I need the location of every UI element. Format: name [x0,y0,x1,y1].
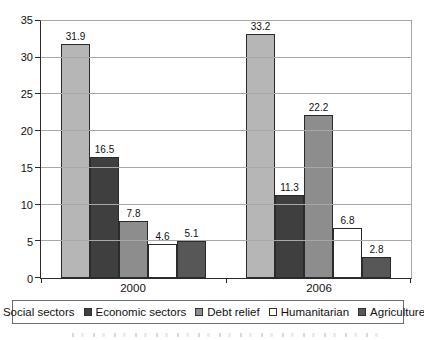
y-axis-labels: 05101520253035 [0,20,33,279]
social-sectors-bar [61,44,90,278]
y-tick-label: 10 [0,199,33,211]
humanitarian-bar [148,244,177,278]
bar-value-label: 33.2 [232,21,290,32]
legend-label: Agriculture [370,306,424,318]
legend-label: Economic sectors [96,306,187,318]
gridline [41,167,411,168]
y-tick-label: 30 [0,51,33,63]
gridline [41,130,411,131]
category-label-2000: 2000 [40,282,226,294]
gridline [41,93,411,94]
legend-label: Humanitarian [281,306,349,318]
legend-item: Economic sectors [84,306,187,318]
legend-item: Agriculture [358,306,424,318]
faint-cropped-caption [72,333,380,337]
plot-area: 31.916.57.84.65.133.211.322.26.82.8 [40,20,412,279]
bar-value-label: 31.9 [47,31,105,42]
y-tick-mark [35,20,40,21]
legend-swatch-icon [84,308,92,316]
bar-value-label: 7.8 [105,208,163,219]
bar: 33.2 [246,34,275,278]
y-tick-mark [35,204,40,205]
bar-value-label: 22.2 [290,102,348,113]
legend: Social sectorsEconomic sectorsDebt relie… [12,300,404,324]
bar: 11.3 [275,195,304,278]
legend-item: Humanitarian [269,306,349,318]
gridline [41,204,411,205]
gridline [41,240,411,241]
y-tick-label: 15 [0,162,33,174]
gridline [41,57,411,58]
y-tick-label: 5 [0,236,33,248]
legend-swatch-icon [195,308,203,316]
y-tick-mark [35,93,40,94]
y-tick-mark [35,277,40,278]
debt-relief-bar [304,115,333,278]
y-tick-mark [35,167,40,168]
y-tick-mark [35,240,40,241]
y-tick-label: 35 [0,14,33,26]
bar-value-label: 16.5 [76,144,134,155]
y-tick-label: 0 [0,273,33,285]
x-axis-category-labels: 20002006 [40,282,412,294]
bar-value-label: 2.8 [348,244,406,255]
bar: 7.8 [119,221,148,278]
legend-swatch-icon [358,308,366,316]
legend-item: Debt relief [195,306,259,318]
bar: 4.6 [148,244,177,278]
bar-value-label: 5.1 [163,228,221,239]
legend-label: Social sectors [3,306,75,318]
social-sectors-bar [246,34,275,278]
agriculture-bar [177,241,206,278]
y-tick-label: 25 [0,88,33,100]
bar-value-label: 6.8 [319,215,377,226]
bar: 2.8 [362,257,391,278]
bar: 22.2 [304,115,333,278]
legend-item: Social sectors [0,306,75,318]
debt-relief-bar [119,221,148,278]
legend-label: Debt relief [207,306,259,318]
y-tick-label: 20 [0,125,33,137]
legend-swatch-icon [269,308,277,316]
y-tick-mark [35,130,40,131]
bar: 5.1 [177,241,206,278]
bar-chart-figure: 05101520253035 31.916.57.84.65.133.211.3… [0,0,424,340]
y-tick-mark [35,57,40,58]
category-label-2006: 2006 [226,282,412,294]
agriculture-bar [362,257,391,278]
economic-sectors-bar [275,195,304,278]
bar: 31.9 [61,44,90,278]
